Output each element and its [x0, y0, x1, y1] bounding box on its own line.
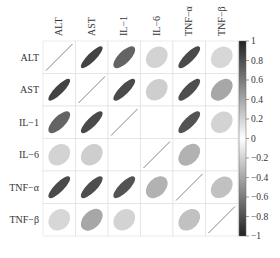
- correlation-cell: [206, 74, 239, 107]
- correlation-cell: [141, 74, 174, 107]
- correlation-cell: [43, 74, 76, 107]
- correlation-cell: [206, 204, 239, 237]
- colorbar-tick-label: −0.6: [251, 192, 268, 202]
- correlation-cell: [43, 41, 76, 74]
- column-label: TNF−α: [183, 5, 194, 36]
- correlation-cell: [206, 41, 239, 74]
- column-label: ALT: [53, 17, 64, 36]
- correlation-cell: [206, 139, 239, 172]
- correlation-cell: [141, 204, 174, 237]
- correlation-cell: [76, 106, 109, 139]
- correlation-cell: [108, 106, 141, 139]
- colorbar-tick-label: 0.6: [251, 75, 263, 85]
- correlation-cell: [173, 74, 206, 107]
- colorbar: 10.80.60.40.20−0.2−0.4−0.6−0.8−1: [239, 36, 268, 241]
- correlation-cell: [108, 204, 141, 237]
- colorbar-tick-label: 0: [251, 134, 256, 144]
- correlation-cell: [173, 171, 206, 204]
- correlation-cell: [43, 106, 76, 139]
- correlation-cell: [206, 106, 239, 139]
- column-label: TNF−β: [216, 6, 227, 36]
- row-label: IL−1: [19, 117, 39, 128]
- colorbar-tick-label: 1: [251, 36, 256, 46]
- correlation-cell: [173, 106, 206, 139]
- colorbar-tick-label: −0.8: [251, 212, 268, 222]
- correlation-cell: [206, 171, 239, 204]
- correlation-cell: [173, 204, 206, 237]
- correlation-cell: [141, 171, 174, 204]
- correlation-cell: [108, 171, 141, 204]
- row-label: TNF−β: [9, 214, 39, 225]
- correlation-cell: [43, 139, 76, 172]
- correlation-cells: [43, 41, 238, 236]
- correlation-matrix-chart: ALTASTIL−1IL−6TNF−αTNF−β ALTASTIL−1IL−6T…: [0, 0, 280, 258]
- correlation-cell: [108, 41, 141, 74]
- row-label: TNF−α: [9, 182, 40, 193]
- column-label: IL−1: [118, 16, 129, 36]
- correlation-cell: [141, 106, 174, 139]
- colorbar-tick-label: 0.4: [251, 95, 263, 105]
- column-label: IL−6: [151, 16, 162, 36]
- correlation-cell: [108, 74, 141, 107]
- correlation-cell: [173, 41, 206, 74]
- column-label: AST: [86, 17, 97, 36]
- row-labels: ALTASTIL−1IL−6TNF−αTNF−β: [9, 52, 40, 226]
- correlation-cell: [173, 139, 206, 172]
- correlation-cell: [76, 74, 109, 107]
- colorbar-tick-label: 0.8: [251, 56, 263, 66]
- colorbar-tick-label: −1: [251, 231, 261, 241]
- colorbar-tick-label: 0.2: [251, 114, 263, 124]
- correlation-cell: [76, 204, 109, 237]
- correlation-cell: [76, 171, 109, 204]
- colorbar-tick-label: −0.4: [251, 173, 268, 183]
- row-label: IL−6: [19, 149, 39, 160]
- column-labels: ALTASTIL−1IL−6TNF−αTNF−β: [53, 5, 227, 36]
- row-label: AST: [20, 84, 39, 95]
- correlation-cell: [43, 204, 76, 237]
- correlation-cell: [141, 139, 174, 172]
- correlation-cell: [108, 139, 141, 172]
- row-label: ALT: [20, 52, 39, 63]
- colorbar-tick-label: −0.2: [251, 153, 268, 163]
- correlation-cell: [43, 171, 76, 204]
- correlation-cell: [76, 139, 109, 172]
- correlation-cell: [76, 41, 109, 74]
- correlation-cell: [141, 41, 174, 74]
